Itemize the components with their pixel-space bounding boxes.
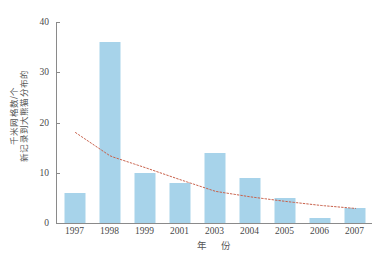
bar-slot	[162, 22, 197, 223]
bar[interactable]	[309, 218, 330, 223]
y-axis-tick-label: 20	[40, 118, 50, 128]
x-axis-tick-label: 2001	[170, 226, 189, 236]
bar-slot	[57, 22, 92, 223]
bar-slot	[302, 22, 337, 223]
x-axis-tick-label: 1999	[135, 226, 154, 236]
chart-figure: 新记录到大熊猫分布的 千米网格数/个 010203040 19971998199…	[0, 0, 380, 266]
x-axis-tick-label: 2006	[310, 226, 329, 236]
x-axis-tick-label: 1998	[100, 226, 119, 236]
x-axis-title: 年 份	[56, 238, 372, 252]
y-axis-title: 新记录到大熊猫分布的 千米网格数/个	[0, 0, 40, 232]
bar-slot	[232, 22, 267, 223]
x-axis-tick-label: 2005	[275, 226, 294, 236]
bar[interactable]	[344, 208, 365, 223]
bar[interactable]	[169, 183, 190, 223]
x-axis-tick-label: 2003	[205, 226, 224, 236]
bar-slot	[267, 22, 302, 223]
x-axis-tick-label: 2007	[345, 226, 364, 236]
y-axis-title-line-1: 新记录到大熊猫分布的	[20, 70, 30, 162]
bar-group	[57, 22, 372, 223]
bar-slot	[92, 22, 127, 223]
bar-slot	[337, 22, 372, 223]
x-axis-line	[56, 223, 372, 224]
y-axis-tick-label: 0	[44, 218, 49, 228]
x-axis-tick-label: 2004	[240, 226, 259, 236]
bar-slot	[127, 22, 162, 223]
bar[interactable]	[64, 193, 85, 223]
plot-area: 010203040	[56, 22, 372, 224]
bar[interactable]	[239, 178, 260, 223]
y-axis-tick-label: 10	[40, 168, 50, 178]
bar[interactable]	[99, 42, 120, 223]
y-axis-tick-label: 40	[40, 17, 50, 27]
y-axis-tick: 0	[56, 223, 60, 224]
x-axis-tick-label: 1997	[65, 226, 84, 236]
bar[interactable]	[134, 173, 155, 223]
bar[interactable]	[274, 198, 295, 223]
bar-slot	[197, 22, 232, 223]
bar[interactable]	[204, 153, 225, 223]
y-axis-tick-label: 30	[40, 67, 50, 77]
